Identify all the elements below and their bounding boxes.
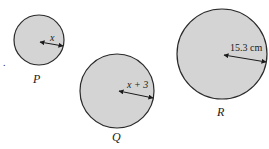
circle-q — [80, 54, 154, 128]
circle-label-q: Q — [112, 130, 121, 144]
circle-r-group: 15.3 cm R — [177, 9, 267, 119]
circles-diagram: . x P x + 3 Q 15.3 cm R — [0, 0, 269, 149]
radius-label-q: x + 3 — [126, 79, 148, 90]
radius-label-r: 15.3 cm — [230, 42, 262, 53]
circle-p-group: x P — [14, 15, 64, 86]
circle-q-group: x + 3 Q — [80, 54, 154, 144]
circle-r — [177, 9, 267, 99]
circle-label-p: P — [32, 72, 41, 86]
circle-label-r: R — [216, 105, 225, 119]
radius-label-p: x — [49, 32, 55, 43]
stray-mark: . — [3, 57, 6, 68]
circle-p — [14, 15, 64, 65]
